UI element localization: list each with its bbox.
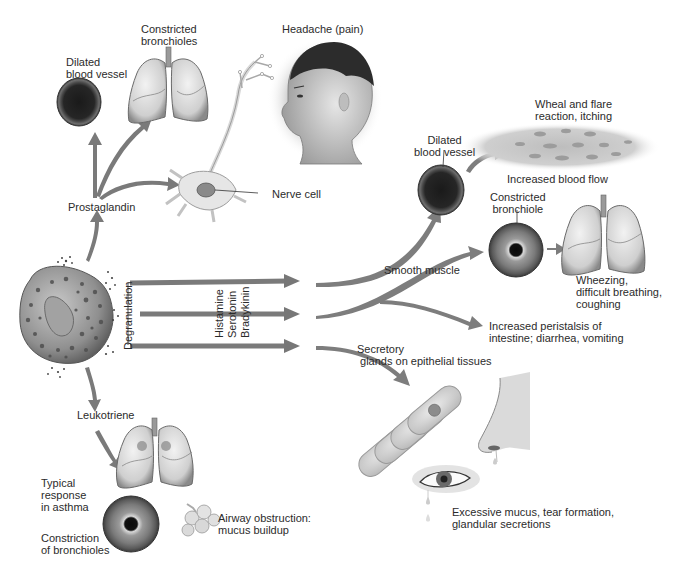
label-leukotriene: Leukotriene [77,409,135,421]
mast-cell-illustration [20,256,119,378]
label-smooth-muscle: Smooth muscle [384,264,460,276]
label-airway-obstruction: Airway obstruction: mucus buildup [218,512,311,536]
dilated-vessel-left-illustration [57,78,101,126]
label-secretory-glands: Secretory glands on epithelial tissues [357,343,492,367]
label-histamine: Histamine [213,289,225,338]
label-headache: Headache (pain) [282,23,363,35]
label-constricted-bronchioles-top: Constricted bronchioles [141,23,197,47]
label-constricted-bronchiole-right: Constricted bronchiole [490,191,546,215]
label-dilated-vessel-left: Dilated blood vessel [66,56,127,80]
dilated-vessel-right-illustration [418,165,464,215]
label-dilated-vessel-right: Dilated blood vessel [414,134,475,158]
label-constriction-bronchioles: Constriction of bronchioles [41,532,110,556]
headache-head-illustration [267,38,383,164]
lungs-right-illustration [562,195,645,275]
alveoli-mucus-illustration [182,504,220,536]
label-excessive-mucus: Excessive mucus, tear formation, glandul… [452,506,614,530]
constricted-bronchiole-bottom-illustration [103,496,159,552]
label-prostaglandin: Prostaglandin [68,201,135,213]
nose-illustration [479,372,531,465]
label-degranulation: Degranulation [122,282,134,351]
wheal-skin-illustration [460,123,660,171]
label-nerve-cell: Nerve cell [272,188,321,200]
label-peristalsis: Increased peristalsis of intestine; diar… [489,320,624,344]
label-increased-blood-flow: Increased blood flow [507,173,608,185]
label-typical-response: Typical response in asthma [41,477,89,513]
label-bradykinin: Bradykinin [239,287,251,338]
label-wheezing: Wheezing, difficult breathing, coughing [576,274,662,310]
lungs-bottom-illustration [116,418,193,488]
label-wheal-flare: Wheal and flare reaction, itching [535,98,612,122]
lungs-top-illustration [128,47,208,123]
label-serotonin: Serotonin [226,291,238,338]
constricted-bronchiole-right-illustration [489,223,543,277]
